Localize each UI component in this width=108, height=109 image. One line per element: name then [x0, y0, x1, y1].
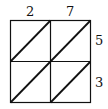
lattice-grid — [0, 0, 108, 109]
